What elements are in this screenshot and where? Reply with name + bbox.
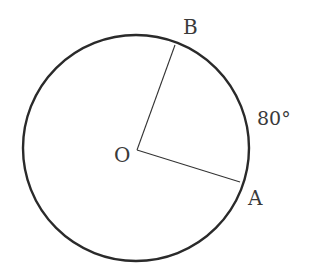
radius-ob [137,45,175,150]
point-label-b: B [183,15,198,39]
circle [23,35,249,261]
circle-diagram: O B A 80° [0,0,309,269]
point-label-a: A [247,186,263,210]
center-label-o: O [114,143,130,167]
radius-oa [137,150,240,182]
arc-measure-label: 80° [257,107,291,129]
